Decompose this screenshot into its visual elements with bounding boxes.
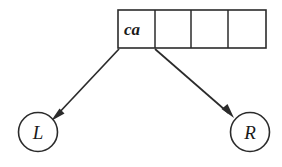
arrow-to-left-node [51,49,119,121]
pointer-array-diagram: ca L R [0,0,282,167]
diagram-canvas: ca L R [0,0,282,167]
arrow-to-right-node [155,49,234,118]
array-cell-0-text: ca [124,20,141,39]
left-node: L [19,113,58,152]
array-outer-border [118,10,266,48]
arrow-to-right-node-head [222,104,235,118]
left-node-label: L [32,122,44,143]
array-of-cells: ca [118,10,266,48]
arrow-to-left-node-shaft [57,49,120,116]
right-node: R [231,113,270,152]
right-node-label: R [243,122,256,143]
arrow-to-right-node-shaft [155,49,229,113]
